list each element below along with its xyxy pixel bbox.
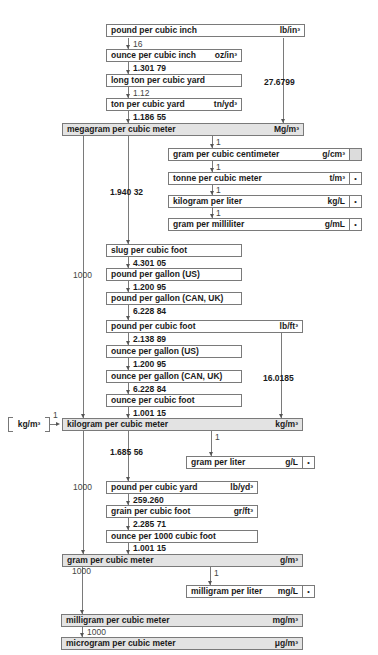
unit-symbol: μg/m³: [275, 638, 298, 649]
unit-symbol: oz/in³: [215, 50, 237, 61]
unit-name: pound per gallon (US): [111, 269, 200, 280]
factor-label: 6.228 84: [133, 384, 166, 394]
unit-box-ton-per-cubic-yard: ton per cubic yard tn/yd³: [106, 98, 242, 111]
factor-label: 1.301 79: [133, 63, 166, 73]
factor-label: 1000: [73, 482, 92, 492]
connector: [83, 431, 84, 554]
unit-name: pound per gallon (CAN, UK): [111, 293, 223, 304]
bullet-marker-icon: •: [349, 218, 362, 231]
unit-box-ounce-per-cubic-inch: ounce per cubic inch oz/in³: [106, 49, 242, 62]
marker-cell: [349, 148, 362, 161]
factor-label: 1000: [73, 270, 92, 280]
unit-name: gram per liter: [191, 457, 245, 468]
unit-name: gram per milliliter: [173, 219, 244, 230]
factor-label: 1.001 15: [133, 408, 166, 418]
unit-box-kilogram-per-cubic-meter: kilogram per cubic meter kg/m³: [62, 418, 303, 431]
bullet-marker-icon: •: [302, 456, 315, 469]
unit-name: ounce per 1000 cubic foot: [111, 531, 216, 542]
unit-box-milligram-per-cubic-meter: milligram per cubic meter mg/m³: [61, 614, 303, 627]
unit-box-gram-per-milliliter: gram per milliliter g/mL •: [168, 218, 350, 231]
unit-symbol: gr/ft³: [234, 506, 253, 517]
unit-name: ounce per cubic inch: [111, 50, 196, 61]
unit-box-pound-per-cubic-inch: pound per cubic inch lb/in³: [106, 24, 305, 37]
unit-symbol: g/mL: [325, 219, 345, 230]
factor-label: 1: [216, 208, 221, 218]
unit-box-gram-per-liter: gram per liter g/L •: [186, 456, 303, 469]
unit-name: ounce per gallon (US): [111, 346, 199, 357]
factor-label: 1.12: [133, 88, 150, 98]
factor-label: 1.001 15: [133, 543, 166, 553]
unit-symbol: lb/in³: [280, 25, 300, 36]
unit-box-slug-per-cubic-foot: slug per cubic foot: [106, 244, 242, 257]
unit-box-tonne-per-cubic-meter: tonne per cubic meter t/m³ •: [168, 172, 350, 185]
unit-symbol: Mg/m³: [274, 124, 299, 135]
unit-box-microgram-per-cubic-meter: microgram per cubic meter μg/m³: [61, 637, 303, 650]
unit-box-ounce-per-cubic-foot: ounce per cubic foot: [106, 394, 242, 407]
unit-box-long-ton-per-cubic-yard: long ton per cubic yard: [106, 74, 242, 87]
unit-name: milligram per liter: [191, 586, 262, 597]
unit-name: ounce per cubic foot: [111, 395, 195, 406]
unit-symbol: lb/ft³: [280, 321, 298, 332]
factor-label: 1.186 55: [133, 112, 166, 122]
unit-symbol: mg/m³: [273, 615, 299, 626]
unit-box-gram-per-cubic-meter: gram per cubic meter g/m³: [62, 554, 303, 567]
base-unit-label: kg/m³: [8, 417, 50, 432]
unit-symbol: mg/L: [278, 586, 298, 597]
unit-symbol: kg/L: [328, 196, 345, 207]
unit-name: kilogram per liter: [173, 196, 242, 207]
unit-name: milligram per cubic meter: [66, 615, 169, 626]
factor-label: 259.260: [133, 495, 164, 505]
unit-symbol: kg/m³: [275, 419, 298, 430]
unit-box-grain-per-cubic-foot: grain per cubic foot gr/ft³: [106, 505, 258, 518]
factor-label: 6.228 84: [133, 306, 166, 316]
unit-box-ounce-per-gallon-us: ounce per gallon (US): [106, 345, 242, 358]
bullet-marker-icon: •: [302, 585, 315, 598]
unit-name: pound per cubic inch: [111, 25, 197, 36]
unit-symbol: g/cm³: [322, 149, 345, 160]
factor-label: 1.200 95: [133, 282, 166, 292]
factor-label: 1: [216, 162, 221, 172]
factor-label: 27.6799: [264, 77, 295, 87]
unit-box-pound-per-cubic-foot: pound per cubic foot lb/ft³: [106, 320, 303, 333]
factor-label: 1: [216, 185, 221, 195]
factor-label: 1.200 95: [133, 359, 166, 369]
unit-name: pound per cubic foot: [111, 321, 196, 332]
factor-label: 1000: [87, 627, 106, 637]
unit-symbol: lb/yd³: [230, 482, 253, 493]
unit-name: kilogram per cubic meter: [67, 419, 168, 430]
unit-box-ounce-per-gallon-can-uk: ounce per gallon (CAN, UK): [106, 370, 242, 383]
unit-symbol: t/m³: [329, 173, 345, 184]
factor-label: 1: [215, 432, 220, 442]
unit-box-megagram-per-cubic-meter: megagram per cubic meter Mg/m³: [62, 123, 304, 136]
unit-box-pound-per-gallon-us: pound per gallon (US): [106, 268, 242, 281]
unit-box-ounce-per-1000-cubic-foot: ounce per 1000 cubic foot: [106, 530, 258, 543]
factor-label: 2.285 71: [133, 519, 166, 529]
unit-name: ounce per gallon (CAN, UK): [111, 371, 222, 382]
arrow-right-icon: [56, 422, 60, 426]
factor-label: 1.685 56: [110, 447, 143, 457]
unit-box-pound-per-cubic-yard: pound per cubic yard lb/yd³: [106, 481, 258, 494]
factor-label: 1.940 32: [110, 187, 143, 197]
unit-box-gram-per-cubic-centimeter: gram per cubic centimeter g/cm³: [168, 148, 350, 161]
bullet-marker-icon: •: [349, 172, 362, 185]
unit-name: tonne per cubic meter: [173, 173, 262, 184]
unit-name: megagram per cubic meter: [67, 124, 176, 135]
factor-label: 2.138 89: [133, 334, 166, 344]
unit-box-milligram-per-liter: milligram per liter mg/L •: [186, 585, 303, 598]
unit-name: ton per cubic yard: [111, 99, 185, 110]
unit-name: grain per cubic foot: [111, 506, 190, 517]
factor-label: 4.301 05: [133, 258, 166, 268]
factor-label: 16: [133, 39, 142, 49]
unit-name: pound per cubic yard: [111, 482, 197, 493]
factor-label: 1: [53, 410, 58, 420]
unit-box-kilogram-per-liter: kilogram per liter kg/L •: [168, 195, 350, 208]
unit-symbol: tn/yd³: [214, 99, 237, 110]
unit-symbol: g/m³: [280, 555, 298, 566]
factor-label: 1: [214, 568, 219, 578]
unit-box-pound-per-gallon-can-uk: pound per gallon (CAN, UK): [106, 292, 242, 305]
unit-name: microgram per cubic meter: [66, 638, 176, 649]
bullet-marker-icon: •: [349, 195, 362, 208]
factor-label: 1: [216, 137, 221, 147]
unit-name: gram per cubic meter: [67, 555, 153, 566]
unit-name: slug per cubic foot: [111, 245, 187, 256]
